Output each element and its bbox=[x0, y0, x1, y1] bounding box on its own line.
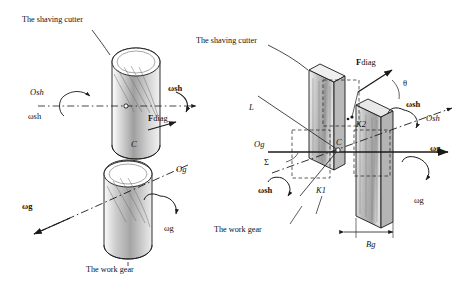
work-gear-cylinder bbox=[104, 160, 152, 259]
left-label-omega-g-vector: ωg bbox=[22, 202, 32, 211]
left-label-O-g-sub: g bbox=[182, 164, 186, 174]
right-label-omega-g-vector-sub: g bbox=[436, 143, 440, 153]
left-label-F-diag-sub: diag bbox=[153, 113, 168, 123]
right-label-omega-sh-vector-sub: sh bbox=[412, 99, 420, 109]
right-label-O-g: Og bbox=[254, 140, 264, 149]
left-label-omega-g-vector-sub: g bbox=[28, 201, 32, 211]
right-work-gear-caption: The work gear bbox=[214, 226, 262, 234]
left-label-omega-sh: ωsh bbox=[28, 112, 41, 121]
right-panel-drawing bbox=[258, 45, 452, 238]
right-label-O-sh: Osh bbox=[426, 114, 440, 123]
right-label-omega-sh-vector: ωsh bbox=[406, 100, 420, 109]
left-label-omega-g-sub: g bbox=[170, 223, 174, 233]
left-work-gear-caption: The work gear bbox=[86, 266, 134, 274]
right-label-theta: θ bbox=[403, 79, 407, 88]
left-label-O-sh-sub: sh bbox=[36, 87, 44, 97]
right-label-omega-g-sub: g bbox=[420, 195, 424, 205]
right-shaving-cutter-caption: The shaving cutter bbox=[196, 37, 257, 45]
right-label-K1: K1 bbox=[316, 186, 326, 195]
right-label-K2: K2 bbox=[356, 120, 366, 129]
right-shaving-cutter-slab bbox=[309, 64, 345, 170]
left-shaving-cutter-caption: The shaving cutter bbox=[22, 16, 83, 24]
left-label-O-g: Og bbox=[176, 165, 186, 174]
right-label-O-g-sub: g bbox=[260, 139, 264, 149]
right-label-L: L bbox=[249, 103, 254, 112]
right-label-omega-g: ωg bbox=[414, 196, 424, 205]
right-label-B-g-sub: g bbox=[371, 239, 375, 249]
right-label-F-diag: Fdiag bbox=[356, 58, 376, 67]
right-label-K1-sub: 1 bbox=[322, 185, 326, 195]
left-label-F-diag: Fdiag bbox=[148, 114, 168, 123]
right-label-omega-sh-sub: sh bbox=[264, 185, 272, 195]
right-label-sigma: Σ bbox=[264, 158, 269, 167]
left-label-omega-g: ωg bbox=[164, 224, 174, 233]
left-label-O-sh: Osh bbox=[30, 88, 44, 97]
left-label-omega-sh-vector: ωsh bbox=[168, 84, 182, 93]
left-label-omega-sh-sub: sh bbox=[34, 111, 42, 121]
figure-gear-shaving: The shaving cutter Osh ωsh ωsh Fdiag C O… bbox=[0, 0, 475, 281]
right-label-omega-g-vector: ωg bbox=[430, 144, 440, 153]
right-label-C: C bbox=[336, 138, 342, 147]
left-label-omega-sh-vector-sub: sh bbox=[174, 83, 182, 93]
right-label-B-g: Bg bbox=[366, 240, 375, 249]
right-label-O-sh-sub: sh bbox=[432, 113, 440, 123]
right-label-K2-sub: 2 bbox=[362, 119, 366, 129]
right-label-omega-sh: ωsh bbox=[258, 186, 272, 195]
right-label-F-diag-sub: diag bbox=[361, 57, 376, 67]
left-label-C: C bbox=[131, 140, 137, 149]
